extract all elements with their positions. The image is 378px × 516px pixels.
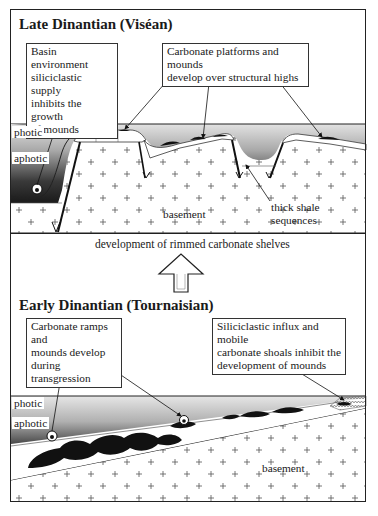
platforms-callout-line: develop over structural highs xyxy=(167,71,304,84)
shale-label-line: thick shale xyxy=(271,201,320,214)
up-arrow-icon xyxy=(159,254,203,292)
bottom-photic-label: photic xyxy=(12,397,44,409)
bottom-aphotic-label: aphotic xyxy=(12,417,49,429)
influx-callout: Siliciclastic influx and mobile carbonat… xyxy=(212,318,346,375)
basin-callout-line: Basin environment xyxy=(31,45,113,71)
top-photic-label: photic xyxy=(12,126,44,138)
shale-label: thick shale sequences xyxy=(271,201,320,227)
shale-label-line: sequences xyxy=(271,214,320,227)
top-aphotic-label: aphotic xyxy=(12,152,49,164)
ramps-callout: Carbonate ramps and mounds develop durin… xyxy=(26,318,122,388)
ramps-callout-line: mounds develop xyxy=(31,346,117,359)
bottom-panel-title: Early Dinantian (Tournaisian) xyxy=(19,297,214,314)
influx-callout-line: development of mounds xyxy=(217,359,341,372)
platforms-callout: Carbonate platforms and mounds develop o… xyxy=(162,43,309,87)
ramps-callout-line: Carbonate ramps and xyxy=(31,320,117,346)
basin-callout-line: inhibits the growth xyxy=(31,97,113,123)
influx-callout-line: carbonate shoals inhibit the xyxy=(217,346,341,359)
platforms-callout-line: Carbonate platforms and mounds xyxy=(167,45,304,71)
basin-callout-line: siliciclastic supply xyxy=(31,71,113,97)
influx-callout-line: Siliciclastic influx and mobile xyxy=(217,320,341,346)
top-panel-title: Late Dinantian (Viséan) xyxy=(19,16,173,33)
basin-callout: Basin environment siliciclastic supply i… xyxy=(26,43,118,139)
top-basement-label: basement xyxy=(163,208,206,220)
ramps-callout-line: during transgression xyxy=(31,359,117,385)
bottom-basement-label: basement xyxy=(262,462,305,474)
transition-caption: development of rimmed carbonate shelves xyxy=(95,238,290,250)
